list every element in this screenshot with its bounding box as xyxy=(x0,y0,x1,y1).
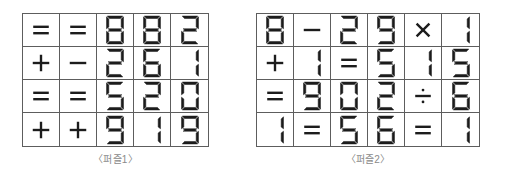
puzzle-1-cell-r4c3-digit-9[interactable] xyxy=(97,113,134,146)
puzzle-2-cell-r2c2-digit-1[interactable] xyxy=(294,47,331,80)
puzzle-2-cell-r4c4-digit-6[interactable] xyxy=(368,113,405,146)
puzzle-1: 〈퍼즐1〉 xyxy=(22,13,209,166)
puzzle-1-cell-r3c5-digit-0[interactable] xyxy=(171,80,208,113)
puzzle-2-cell-r1c4-digit-9[interactable] xyxy=(368,14,405,47)
puzzle-1-cell-r3c4-digit-2[interactable] xyxy=(134,80,171,113)
puzzle-1-cell-r3c2-equals-icon[interactable] xyxy=(60,80,97,113)
puzzle-2-cell-r3c3-digit-0[interactable] xyxy=(331,80,368,113)
puzzle-2-cell-r2c4-digit-5[interactable] xyxy=(368,47,405,80)
puzzle-2-cell-r3c4-digit-2[interactable] xyxy=(368,80,405,113)
puzzle-1-cell-r3c1-equals-icon[interactable] xyxy=(23,80,60,113)
puzzle-2-caption: 〈퍼즐2〉 xyxy=(346,154,391,166)
puzzle-1-cell-r2c2-minus-icon[interactable] xyxy=(60,47,97,80)
puzzle-1-cell-r1c4-digit-8[interactable] xyxy=(134,14,171,47)
puzzle-1-caption: 〈퍼즐1〉 xyxy=(93,154,138,166)
puzzle-2-cell-r2c1-plus-icon[interactable] xyxy=(257,47,294,80)
puzzle-2-cell-r2c5-digit-1[interactable] xyxy=(405,47,442,80)
puzzle-2-cell-r4c1-digit-1[interactable] xyxy=(257,113,294,146)
puzzle-2-cell-r2c3-equals-icon[interactable] xyxy=(331,47,368,80)
puzzle-1-cell-r1c3-digit-8[interactable] xyxy=(97,14,134,47)
puzzle-2-cell-r1c1-digit-8[interactable] xyxy=(257,14,294,47)
puzzle-2-cell-r2c6-digit-5[interactable] xyxy=(442,47,479,80)
puzzle-2-cell-r4c5-equals-icon[interactable] xyxy=(405,113,442,146)
puzzle-2-cell-r1c2-minus-icon[interactable] xyxy=(294,14,331,47)
puzzle-1-cell-r2c1-plus-icon[interactable] xyxy=(23,47,60,80)
puzzle-1-cell-r1c2-equals-icon[interactable] xyxy=(60,14,97,47)
puzzle-2: 〈퍼즐2〉 xyxy=(256,13,480,166)
puzzle-2-cell-r4c2-equals-icon[interactable] xyxy=(294,113,331,146)
puzzle-1-cell-r2c3-digit-2[interactable] xyxy=(97,47,134,80)
puzzle-1-grid xyxy=(22,13,209,147)
puzzle-1-cell-r4c4-digit-1[interactable] xyxy=(134,113,171,146)
puzzle-figure: 〈퍼즐1〉〈퍼즐2〉 xyxy=(0,0,510,183)
puzzle-1-cell-r3c3-digit-5[interactable] xyxy=(97,80,134,113)
puzzle-1-cell-r4c5-digit-9[interactable] xyxy=(171,113,208,146)
puzzle-1-cell-r4c1-plus-icon[interactable] xyxy=(23,113,60,146)
puzzle-2-grid xyxy=(256,13,480,147)
puzzle-1-cell-r2c4-digit-6[interactable] xyxy=(134,47,171,80)
puzzle-2-cell-r4c3-digit-5[interactable] xyxy=(331,113,368,146)
puzzle-2-cell-r1c5-times-icon[interactable] xyxy=(405,14,442,47)
puzzle-1-cell-r1c5-digit-2[interactable] xyxy=(171,14,208,47)
puzzle-1-cell-r1c1-equals-icon[interactable] xyxy=(23,14,60,47)
puzzle-2-cell-r1c3-digit-2[interactable] xyxy=(331,14,368,47)
puzzle-2-cell-r4c6-digit-1[interactable] xyxy=(442,113,479,146)
puzzle-2-cell-r3c1-equals-icon[interactable] xyxy=(257,80,294,113)
puzzle-2-cell-r1c6-digit-1[interactable] xyxy=(442,14,479,47)
puzzle-1-cell-r2c5-digit-1[interactable] xyxy=(171,47,208,80)
puzzle-1-cell-r4c2-plus-icon[interactable] xyxy=(60,113,97,146)
puzzle-2-cell-r3c6-digit-6[interactable] xyxy=(442,80,479,113)
puzzle-2-cell-r3c2-digit-9[interactable] xyxy=(294,80,331,113)
puzzle-2-cell-r3c5-divide-icon[interactable] xyxy=(405,80,442,113)
